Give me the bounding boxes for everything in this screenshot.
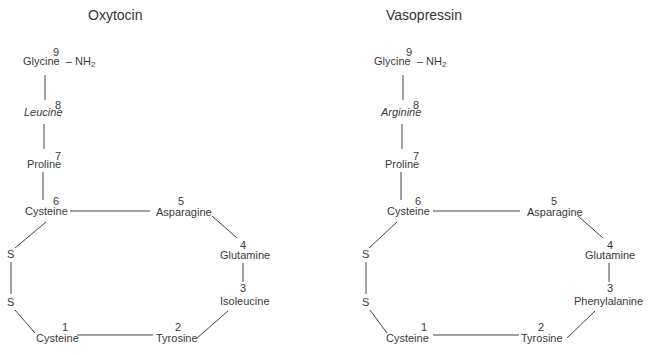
residue-phenylalanine: Phenylalanine <box>574 296 643 307</box>
residue-cysteine-1: Cysteine <box>36 333 79 344</box>
residue-cysteine-6: Cysteine <box>387 206 430 217</box>
residue-glutamine: Glutamine <box>220 250 270 261</box>
bond-3-2 <box>567 311 595 338</box>
residue-cysteine-6: Cysteine <box>25 206 68 217</box>
residue-arginine: Arginine <box>381 107 421 118</box>
residue-asparagine: Asparagine <box>527 207 583 218</box>
residue-asparagine: Asparagine <box>156 207 212 218</box>
sulfur-atom: S <box>7 297 14 308</box>
bond-s-1 <box>15 310 35 333</box>
residue-glycine: Glycine – NH2 <box>374 56 446 69</box>
bond-6-s <box>369 222 397 248</box>
residue-cysteine-1: Cysteine <box>386 333 429 344</box>
bond-5-4 <box>212 216 237 238</box>
amide-terminal: – NH <box>417 55 442 67</box>
diagram-title-oxytocin: Oxytocin <box>88 8 142 22</box>
position-3: 3 <box>240 283 246 294</box>
residue-isoleucine: Isoleucine <box>220 296 270 307</box>
bond-3-2 <box>197 311 228 338</box>
residue-glycine: Glycine – NH2 <box>23 56 95 69</box>
residue-proline: Proline <box>385 159 419 170</box>
diagram-title-vasopressin: Vasopressin <box>386 8 462 22</box>
residue-leucine: Leucine <box>24 107 63 118</box>
bond-6-s <box>15 222 46 248</box>
sulfur-atom: S <box>362 249 369 260</box>
residue-proline: Proline <box>27 159 61 170</box>
residue-glutamine: Glutamine <box>585 250 635 261</box>
sulfur-atom: S <box>362 297 369 308</box>
position-3: 3 <box>607 283 613 294</box>
bond-s-1 <box>370 310 387 333</box>
sulfur-atom: S <box>7 249 14 260</box>
residue-tyrosine: Tyrosine <box>521 333 563 344</box>
amide-terminal: – NH <box>66 55 91 67</box>
bond-lines <box>0 0 652 355</box>
residue-tyrosine: Tyrosine <box>156 333 198 344</box>
bond-5-4 <box>578 216 603 238</box>
